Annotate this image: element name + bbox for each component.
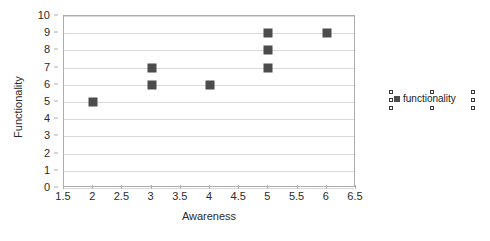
plot-area[interactable] bbox=[63, 15, 355, 187]
y-tick-mark bbox=[54, 169, 58, 170]
data-point[interactable] bbox=[264, 46, 273, 55]
y-tick-mark bbox=[54, 187, 58, 188]
y-tick-label: 8 bbox=[44, 44, 50, 55]
y-tick-mark bbox=[54, 135, 58, 136]
x-tick-label: 5.5 bbox=[289, 191, 304, 202]
y-tick-mark bbox=[54, 49, 58, 50]
selection-handle[interactable] bbox=[430, 90, 434, 94]
x-tick-mark bbox=[63, 185, 64, 189]
legend-entry[interactable]: functionality bbox=[394, 94, 456, 104]
gridline bbox=[64, 50, 354, 51]
gridline bbox=[64, 16, 354, 17]
gridline bbox=[64, 136, 354, 137]
y-tick-mark bbox=[54, 66, 58, 67]
data-point[interactable] bbox=[147, 63, 156, 72]
y-axis-tick-labels: 012345678910 bbox=[0, 15, 58, 187]
y-tick-label: 6 bbox=[44, 78, 50, 89]
selection-handle[interactable] bbox=[389, 98, 393, 102]
y-tick-label: 2 bbox=[44, 147, 50, 158]
y-tick-label: 9 bbox=[44, 27, 50, 38]
scatter-chart[interactable]: Functionality 012345678910 1.522.533.544… bbox=[0, 0, 375, 241]
x-tick-label: 2 bbox=[89, 191, 95, 202]
x-tick-label: 6.5 bbox=[347, 191, 362, 202]
gridline bbox=[64, 154, 354, 155]
x-tick-mark bbox=[355, 185, 356, 189]
selection-handle[interactable] bbox=[471, 90, 475, 94]
y-tick-mark bbox=[54, 15, 58, 16]
legend-marker-icon bbox=[394, 96, 400, 102]
gridline bbox=[64, 68, 354, 69]
legend[interactable]: functionality bbox=[391, 92, 473, 108]
x-tick-label: 2.5 bbox=[114, 191, 129, 202]
data-point[interactable] bbox=[206, 80, 215, 89]
x-tick-label: 3 bbox=[148, 191, 154, 202]
y-tick-mark bbox=[54, 101, 58, 102]
gridline bbox=[64, 119, 354, 120]
x-tick-label: 1.5 bbox=[55, 191, 70, 202]
x-tick-mark bbox=[326, 185, 327, 189]
data-point[interactable] bbox=[147, 80, 156, 89]
selection-handle[interactable] bbox=[430, 106, 434, 110]
y-tick-label: 0 bbox=[44, 182, 50, 193]
legend-label: functionality bbox=[403, 94, 456, 104]
x-axis-title: Awareness bbox=[63, 210, 355, 222]
selection-handle[interactable] bbox=[471, 106, 475, 110]
y-tick-label: 1 bbox=[44, 164, 50, 175]
data-point[interactable] bbox=[264, 29, 273, 38]
x-tick-label: 6 bbox=[323, 191, 329, 202]
x-tick-mark bbox=[238, 185, 239, 189]
y-tick-label: 10 bbox=[38, 10, 50, 21]
y-tick-mark bbox=[54, 152, 58, 153]
x-tick-mark bbox=[121, 185, 122, 189]
x-tick-mark bbox=[151, 185, 152, 189]
selection-handle[interactable] bbox=[389, 90, 393, 94]
x-tick-label: 5 bbox=[264, 191, 270, 202]
x-tick-mark bbox=[92, 185, 93, 189]
x-tick-mark bbox=[180, 185, 181, 189]
x-tick-mark bbox=[297, 185, 298, 189]
x-tick-label: 3.5 bbox=[172, 191, 187, 202]
data-point[interactable] bbox=[264, 63, 273, 72]
gridline bbox=[64, 33, 354, 34]
y-tick-label: 7 bbox=[44, 61, 50, 72]
x-tick-label: 4.5 bbox=[231, 191, 246, 202]
x-axis-tick-labels: 1.522.533.544.555.566.5 bbox=[63, 189, 355, 205]
gridline bbox=[64, 171, 354, 172]
y-tick-mark bbox=[54, 83, 58, 84]
gridline bbox=[64, 102, 354, 103]
y-tick-mark bbox=[54, 32, 58, 33]
y-tick-label: 3 bbox=[44, 130, 50, 141]
x-tick-label: 4 bbox=[206, 191, 212, 202]
selection-handle[interactable] bbox=[471, 98, 475, 102]
selection-handle[interactable] bbox=[389, 106, 393, 110]
data-point[interactable] bbox=[89, 98, 98, 107]
y-tick-label: 4 bbox=[44, 113, 50, 124]
y-tick-mark bbox=[54, 118, 58, 119]
x-tick-mark bbox=[209, 185, 210, 189]
data-point[interactable] bbox=[322, 29, 331, 38]
x-tick-mark bbox=[267, 185, 268, 189]
y-tick-label: 5 bbox=[44, 96, 50, 107]
